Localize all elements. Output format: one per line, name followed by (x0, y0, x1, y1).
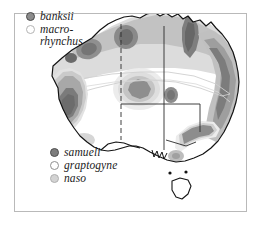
legend-bottom: samueli graptogyne naso (50, 146, 170, 185)
marker-samueli-icon (50, 148, 59, 157)
marker-banksii-icon (26, 12, 35, 21)
legend-item-naso[interactable]: naso (50, 172, 170, 184)
legend-label-banksii: banksii (40, 10, 74, 22)
tasmania-island (168, 170, 191, 199)
legend-label-graptogyne: graptogyne (64, 159, 117, 171)
legend-item-banksii[interactable]: banksii (26, 10, 122, 22)
figure-root: banksii macro- rhynchus samueli graptogy… (0, 0, 261, 227)
legend-item-graptogyne[interactable]: graptogyne (50, 159, 170, 171)
legend-label-samueli: samueli (64, 146, 100, 158)
legend-top: banksii macro- rhynchus (26, 10, 122, 48)
legend-item-samueli[interactable]: samueli (50, 146, 170, 158)
legend-label-macrorhynchus: macro- rhynchus (40, 23, 83, 47)
marker-naso-icon (50, 174, 59, 183)
marker-macrorhynchus-icon (26, 25, 35, 34)
legend-label-naso: naso (64, 172, 86, 184)
marker-graptogyne-icon (50, 161, 59, 170)
legend-item-macrorhynchus[interactable]: macro- rhynchus (26, 23, 122, 47)
